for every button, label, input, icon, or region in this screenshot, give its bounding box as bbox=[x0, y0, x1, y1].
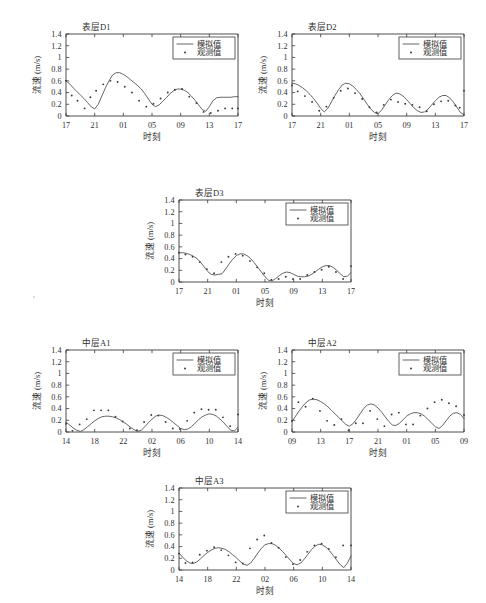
x-tick-label: 01 bbox=[232, 287, 240, 296]
observed-point bbox=[199, 261, 201, 263]
panel-title: 中层A1 bbox=[82, 337, 111, 348]
legend: 模拟值观测值 bbox=[286, 203, 348, 225]
observed-point bbox=[333, 97, 335, 99]
y-tick-label: 1.2 bbox=[51, 42, 61, 51]
observed-point bbox=[115, 416, 117, 418]
observed-point bbox=[186, 420, 188, 422]
x-axis-label: 时刻 bbox=[143, 447, 161, 458]
observed-point bbox=[306, 551, 308, 553]
observed-point bbox=[350, 265, 352, 267]
x-tick-label: 06 bbox=[290, 575, 298, 584]
x-tick-label: 05 bbox=[261, 287, 269, 296]
y-tick-label: 0.2 bbox=[164, 554, 174, 563]
observed-point bbox=[206, 268, 208, 270]
observed-point bbox=[427, 408, 429, 410]
observed-point bbox=[220, 549, 222, 551]
observed-point bbox=[102, 83, 104, 85]
legend-label-simulated: 模拟值 bbox=[310, 493, 334, 503]
y-tick-label: 1 bbox=[57, 369, 61, 378]
plot-D1: 00.20.40.60.811.21.417210105091317时刻流速 (… bbox=[22, 14, 244, 166]
y-tick-label: 1.4 bbox=[277, 30, 287, 39]
observed-point bbox=[306, 274, 308, 276]
x-tick-label: 05 bbox=[431, 437, 439, 446]
x-tick-label: 05 bbox=[148, 121, 156, 130]
y-tick-label: 1 bbox=[283, 53, 287, 62]
observed-point bbox=[419, 106, 421, 108]
observed-point bbox=[192, 561, 194, 563]
chart-panel-A2: 00.20.40.60.811.21.409131721010509时刻流速 (… bbox=[248, 330, 470, 460]
observed-point bbox=[321, 543, 323, 545]
observed-point bbox=[229, 425, 231, 427]
series-observed-points bbox=[65, 80, 239, 114]
legend-dot-swatch bbox=[410, 368, 412, 370]
x-tick-label: 14 bbox=[175, 575, 183, 584]
x-axis-label: 时刻 bbox=[143, 131, 161, 142]
y-tick-label: 1 bbox=[170, 507, 174, 516]
series-observed-points bbox=[65, 408, 239, 432]
observed-point bbox=[79, 423, 81, 425]
observed-point bbox=[328, 266, 330, 268]
series-simulated-line bbox=[179, 544, 351, 568]
x-tick-label: 02 bbox=[148, 437, 156, 446]
observed-point bbox=[231, 107, 233, 109]
observed-point bbox=[152, 103, 154, 105]
y-tick-label: 1.4 bbox=[51, 30, 61, 39]
x-tick-label: 01 bbox=[403, 437, 411, 446]
chart-panel-A3: 00.20.40.60.811.21.414182202061014时刻流速 (… bbox=[135, 468, 357, 600]
observed-point bbox=[333, 424, 335, 426]
y-tick-label: 0.6 bbox=[164, 531, 174, 540]
observed-point bbox=[237, 107, 239, 109]
observed-point bbox=[222, 416, 224, 418]
legend-dot-swatch bbox=[297, 506, 299, 508]
observed-point bbox=[405, 423, 407, 425]
y-tick-label: 0.6 bbox=[51, 393, 61, 402]
observed-point bbox=[185, 562, 187, 564]
x-tick-label: 13 bbox=[317, 437, 325, 446]
observed-point bbox=[145, 106, 147, 108]
observed-point bbox=[117, 81, 119, 83]
legend: 模拟值观测值 bbox=[399, 37, 461, 59]
panel-title: 表层D3 bbox=[195, 187, 224, 198]
observed-point bbox=[188, 96, 190, 98]
observed-point bbox=[235, 253, 237, 255]
observed-point bbox=[328, 548, 330, 550]
observed-point bbox=[292, 563, 294, 565]
observed-point bbox=[178, 252, 180, 254]
y-tick-label: 0 bbox=[57, 428, 61, 437]
observed-point bbox=[228, 554, 230, 556]
y-tick-label: 0 bbox=[283, 428, 287, 437]
observed-point bbox=[278, 278, 280, 280]
observed-point bbox=[138, 100, 140, 102]
legend-label-observed: 观测值 bbox=[197, 363, 221, 373]
observed-point bbox=[107, 409, 109, 411]
chart-panel-A1: 00.20.40.60.811.21.414182202061014时刻流速 (… bbox=[22, 330, 244, 460]
y-tick-label: 0 bbox=[57, 112, 61, 121]
observed-point bbox=[291, 420, 293, 422]
observed-point bbox=[72, 430, 74, 432]
observed-point bbox=[350, 544, 352, 546]
legend-label-observed: 观测值 bbox=[310, 501, 334, 511]
y-tick-label: 1.4 bbox=[51, 346, 61, 355]
observed-point bbox=[224, 107, 226, 109]
observed-point bbox=[77, 100, 79, 102]
observed-point bbox=[93, 409, 95, 411]
panel-title: 中层A3 bbox=[195, 475, 224, 486]
chart-panel-D2: 00.20.40.60.811.21.417210105091317时刻流速 (… bbox=[248, 14, 470, 166]
observed-point bbox=[376, 112, 378, 114]
scan-speck bbox=[33, 296, 35, 298]
observed-point bbox=[208, 409, 210, 411]
observed-point bbox=[160, 97, 162, 99]
y-tick-label: 0.2 bbox=[51, 100, 61, 109]
observed-point bbox=[122, 421, 124, 423]
series-simulated-line bbox=[292, 399, 464, 428]
observed-point bbox=[271, 542, 273, 544]
observed-point bbox=[256, 266, 258, 268]
observed-point bbox=[199, 554, 201, 556]
observed-point bbox=[195, 102, 197, 104]
observed-point bbox=[292, 278, 294, 280]
observed-point bbox=[411, 104, 413, 106]
observed-point bbox=[354, 92, 356, 94]
series-simulated-line bbox=[66, 414, 238, 432]
legend-dot-swatch bbox=[184, 52, 186, 54]
observed-point bbox=[298, 401, 300, 403]
